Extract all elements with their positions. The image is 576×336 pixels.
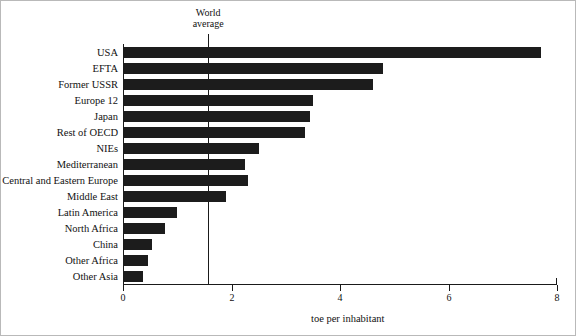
bar-mediterranean [123,159,245,170]
category-label-middle-east: Middle East [67,191,118,202]
bar-china [123,239,152,250]
bar-row: Japan [123,111,557,122]
x-tick-6 [449,285,450,291]
bar-central-and-eastern-europe [123,175,248,186]
x-axis-end-cap-right [556,278,557,285]
world-average-label-line2: average [193,18,224,29]
bar-former-ussr [123,79,373,90]
x-tick-0 [123,285,124,291]
x-axis-title: toe per inhabitant [311,313,384,325]
bar-series: USAEFTAFormer USSREurope 12JapanRest of … [123,44,557,285]
category-label-japan: Japan [94,111,118,122]
bar-japan [123,111,310,122]
bar-row: Other Asia [123,271,557,282]
bar-row: Former USSR [123,79,557,90]
x-tick-label-6: 6 [447,292,452,303]
category-label-usa: USA [97,47,118,58]
bar-europe-12 [123,95,313,106]
plot-area: World average USAEFTAFormer USSREurope 1… [123,44,557,285]
bar-row: EFTA [123,63,557,74]
bar-latin-america [123,207,177,218]
bar-row: China [123,239,557,250]
y-axis-line [123,44,124,285]
category-label-former-ussr: Former USSR [58,79,118,90]
bar-efta [123,63,383,74]
category-label-central-and-eastern-europe: Central and Eastern Europe [2,175,118,186]
bar-rest-of-oecd [123,127,305,138]
category-label-other-asia: Other Asia [73,271,118,282]
x-tick-label-2: 2 [230,292,235,303]
bar-other-asia [123,271,143,282]
category-label-other-africa: Other Africa [65,255,118,266]
category-label-rest-of-oecd: Rest of OECD [57,127,118,138]
bar-usa [123,47,541,58]
world-average-label: World average [193,7,224,29]
bar-other-africa [123,255,148,266]
x-tick-4 [340,285,341,291]
x-tick-label-0: 0 [121,292,126,303]
category-label-mediterranean: Mediterranean [57,159,118,170]
bar-row: North Africa [123,223,557,234]
bar-row: USA [123,47,557,58]
bar-nies [123,143,259,154]
bar-north-africa [123,223,165,234]
bar-row: Central and Eastern Europe [123,175,557,186]
bar-middle-east [123,191,226,202]
category-label-north-africa: North Africa [65,223,118,234]
bar-row: Europe 12 [123,95,557,106]
x-tick-label-8: 8 [555,292,560,303]
category-label-china: China [93,239,118,250]
x-tick-label-4: 4 [338,292,343,303]
category-label-efta: EFTA [93,63,118,74]
bar-row: Latin America [123,207,557,218]
bar-row: Mediterranean [123,159,557,170]
x-tick-2 [232,285,233,291]
x-axis-end-cap [123,278,124,285]
bar-row: NIEs [123,143,557,154]
x-tick-8 [557,285,558,291]
world-average-label-line1: World [193,7,224,18]
bar-row: Middle East [123,191,557,202]
bar-row: Rest of OECD [123,127,557,138]
category-label-europe-12: Europe 12 [75,95,118,106]
chart-page: World average USAEFTAFormer USSREurope 1… [0,0,576,336]
category-label-nies: NIEs [96,143,118,154]
bar-row: Other Africa [123,255,557,266]
category-label-latin-america: Latin America [58,207,118,218]
